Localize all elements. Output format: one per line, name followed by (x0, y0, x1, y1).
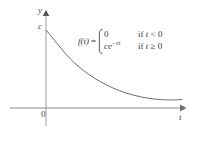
exponential-decay-figure: y c t 0 f(t) = 0 if t < 0 (0, 0, 200, 144)
t-axis-arrowhead (180, 105, 187, 112)
left-brace-icon (98, 29, 103, 54)
equals-sign: = (91, 37, 96, 46)
y-axis-label: y (38, 6, 42, 15)
case-row: ce−ct if t ≥ 0 (104, 42, 162, 54)
plot-canvas (0, 0, 200, 144)
y-intercept-label: c (38, 22, 42, 31)
case-condition-negative: if t < 0 (138, 30, 162, 39)
y-axis-arrowhead (43, 10, 50, 16)
piecewise-formula: f(t) = 0 if t < 0 ce−ct (78, 29, 162, 54)
origin-label: 0 (41, 110, 46, 119)
function-name: f(t) (78, 37, 89, 46)
case-condition-nonnegative: if t ≥ 0 (138, 42, 162, 51)
t-axis-label: t (179, 113, 182, 122)
case-expression-zero: 0 (104, 30, 138, 39)
exponent: −ct (112, 40, 120, 46)
cases-list: 0 if t < 0 ce−ct if t ≥ 0 (104, 30, 162, 54)
case-expression-exponential: ce−ct (104, 42, 138, 51)
